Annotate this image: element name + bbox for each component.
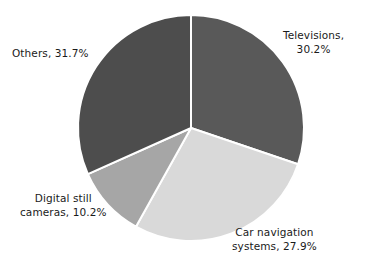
- slice-label-digital-still-cameras: Digital still cameras, 10.2%: [20, 191, 107, 219]
- slice-label-televisions-line1: Televisions,: [283, 28, 344, 42]
- slice-label-digital-still-cameras-line2: cameras, 10.2%: [20, 205, 107, 219]
- slice-label-car-navigation-systems: Car navigation systems, 27.9%: [232, 225, 317, 253]
- slice-label-others: Others, 31.7%: [12, 46, 89, 60]
- slice-label-car-navigation-systems-line1: Car navigation: [232, 225, 317, 239]
- slice-label-digital-still-cameras-line1: Digital still: [20, 191, 107, 205]
- slice-label-televisions-line2: 30.2%: [283, 42, 344, 56]
- slice-label-car-navigation-systems-line2: systems, 27.9%: [232, 239, 317, 253]
- pie-chart-figure: Televisions, 30.2% Others, 31.7% Digital…: [0, 0, 371, 265]
- pie-slice-group: [78, 15, 304, 241]
- slice-label-others-line1: Others, 31.7%: [12, 46, 89, 60]
- slice-label-televisions: Televisions, 30.2%: [283, 28, 344, 56]
